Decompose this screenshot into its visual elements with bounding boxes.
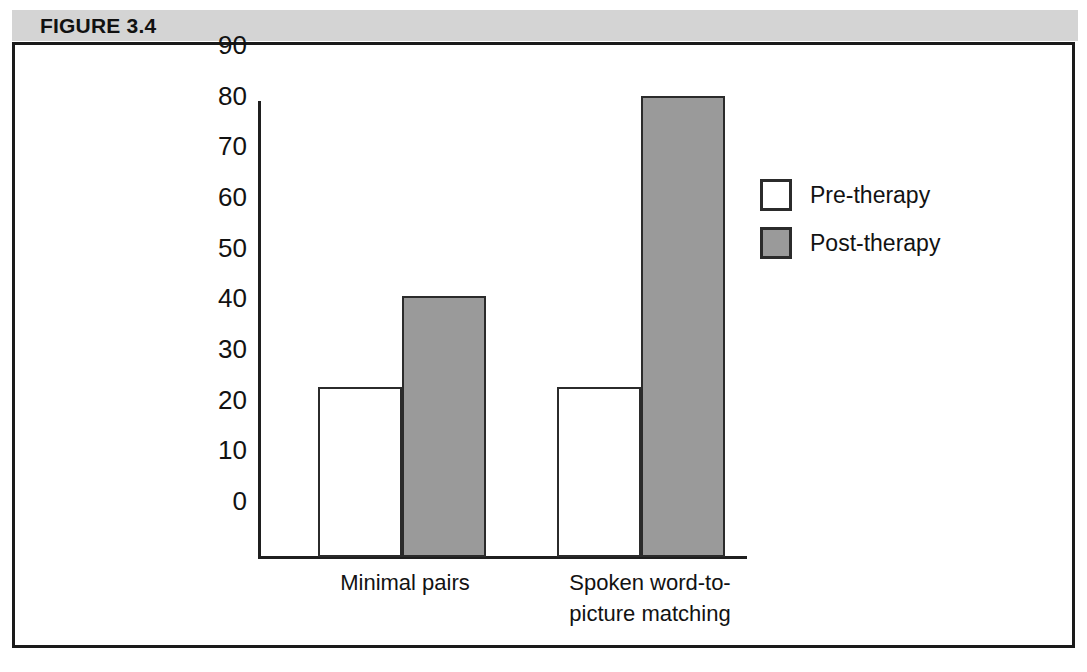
y-tick-label: 80 xyxy=(187,83,247,109)
legend-label: Pre-therapy xyxy=(810,182,930,208)
legend-item-pre-therapy: Pre-therapy xyxy=(760,171,940,219)
y-tick-label: 0 xyxy=(187,488,247,514)
y-tick-label: 60 xyxy=(187,184,247,210)
y-tick-label: 40 xyxy=(187,285,247,311)
plot-area: 90 80 70 60 50 40 30 20 10 0 Minimal pai… xyxy=(15,45,1072,645)
bars-layer xyxy=(258,101,747,557)
category-label-line: Spoken word-to- xyxy=(545,567,755,598)
x-category-label-spoken-word: Spoken word-to- picture matching xyxy=(545,567,755,629)
figure-number-label: FIGURE 3.4 xyxy=(40,14,156,38)
white-square-icon xyxy=(760,179,792,211)
category-label-line: picture matching xyxy=(545,598,755,629)
legend: Pre-therapy Post-therapy xyxy=(760,171,940,267)
bar-post-spoken-word xyxy=(641,96,725,557)
category-label-line: Minimal pairs xyxy=(305,567,505,598)
y-tick-label: 70 xyxy=(187,133,247,159)
y-tick-label: 50 xyxy=(187,235,247,261)
gray-square-icon xyxy=(760,227,792,259)
figure-container: FIGURE 3.4 90 80 70 60 50 40 30 20 10 0 xyxy=(0,0,1087,672)
bar-pre-minimal-pairs xyxy=(318,387,402,557)
bar-pre-spoken-word xyxy=(557,387,641,557)
legend-item-post-therapy: Post-therapy xyxy=(760,219,940,267)
y-tick-label: 30 xyxy=(187,336,247,362)
y-tick-label: 10 xyxy=(187,437,247,463)
bar-post-minimal-pairs xyxy=(402,296,486,557)
x-category-label-minimal-pairs: Minimal pairs xyxy=(305,567,505,598)
legend-label: Post-therapy xyxy=(810,230,940,256)
chart-frame: 90 80 70 60 50 40 30 20 10 0 Minimal pai… xyxy=(12,42,1075,648)
y-axis-tick-labels: 90 80 70 60 50 40 30 20 10 0 xyxy=(175,45,247,501)
y-tick-label: 20 xyxy=(187,387,247,413)
y-tick-label: 90 xyxy=(187,32,247,58)
figure-header-band: FIGURE 3.4 xyxy=(12,10,1078,41)
